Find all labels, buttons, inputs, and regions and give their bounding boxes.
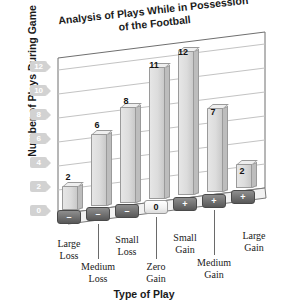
x-leader-medium-gain <box>214 210 215 255</box>
bar-side-face <box>165 65 170 199</box>
bar-front-face <box>62 186 78 210</box>
bar-front-face <box>178 51 194 195</box>
y-tick-12: 12 <box>30 61 47 72</box>
bar-large-loss[interactable] <box>62 186 78 210</box>
bar-front-face <box>149 67 165 199</box>
x-label-medium-loss: Medium Loss <box>72 261 124 284</box>
y-tick-10: 10 <box>30 85 47 96</box>
bar-value-large-loss: 2 <box>59 172 77 182</box>
x-leader-medium-loss <box>98 224 99 259</box>
bar-medium-gain[interactable] <box>207 108 223 192</box>
bar-front-face <box>91 134 107 206</box>
bar-side-face <box>136 105 141 203</box>
x-label-small-loss: Small Loss <box>101 234 153 257</box>
bar-small-gain[interactable] <box>178 51 194 195</box>
base-cube-small-loss[interactable]: – <box>115 204 139 218</box>
bar-side-face <box>78 184 83 210</box>
x-axis-title: Type of Play <box>0 288 288 300</box>
bar-front-face <box>207 108 223 192</box>
y-tick-0: 0 <box>30 205 47 216</box>
bar-side-face <box>252 162 257 188</box>
y-tick-8: 8 <box>30 109 47 120</box>
bar-side-face <box>194 49 199 195</box>
plot-area: 12 10 8 6 4 2 0 2 6 8 11 12 <box>50 32 266 214</box>
x-label-medium-gain: Medium Gain <box>188 257 240 280</box>
bar-value-medium-loss: 6 <box>88 120 106 130</box>
bar-medium-loss[interactable] <box>91 134 107 206</box>
y-tick-4: 4 <box>30 157 47 168</box>
x-label-large-loss: Large Loss <box>43 238 95 261</box>
base-cube-medium-gain[interactable]: + <box>202 194 226 208</box>
bar-zero-gain[interactable] <box>149 67 165 199</box>
x-label-small-gain: Small Gain <box>159 232 211 255</box>
base-cube-small-gain[interactable]: + <box>173 197 197 211</box>
base-cube-medium-loss[interactable]: – <box>86 207 110 221</box>
x-label-zero-gain: Zero Gain <box>130 261 182 284</box>
base-cube-large-gain[interactable]: + <box>231 190 255 204</box>
x-leader-zero-gain <box>156 217 157 259</box>
base-cube-zero-gain[interactable]: 0 <box>144 200 168 214</box>
base-cube-large-loss[interactable]: – <box>57 210 81 224</box>
bar-value-small-gain: 12 <box>174 47 192 57</box>
bar-side-face <box>223 106 228 192</box>
bar-value-small-loss: 8 <box>117 96 135 106</box>
y-tick-6: 6 <box>30 133 47 144</box>
bar-value-large-gain: 2 <box>233 166 251 176</box>
bar-side-face <box>107 132 112 206</box>
bar-value-medium-gain: 7 <box>204 107 222 117</box>
bar-small-loss[interactable] <box>120 107 136 203</box>
bar-value-zero-gain: 11 <box>145 60 163 70</box>
bar-front-face <box>120 107 136 203</box>
y-tick-2: 2 <box>30 181 47 192</box>
x-label-large-gain: Large Gain <box>228 230 280 253</box>
